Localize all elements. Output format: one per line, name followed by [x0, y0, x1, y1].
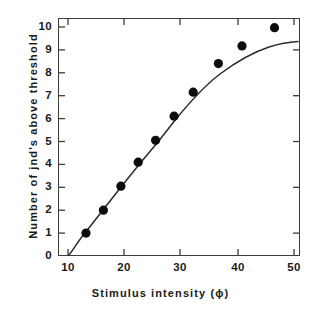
y-axis-ticks-right	[293, 50, 300, 233]
data-point	[170, 112, 179, 121]
x-tick-label-40: 40	[231, 262, 245, 274]
x-axis-ticks	[68, 249, 294, 256]
x-tick-label-50: 50	[287, 262, 301, 274]
y-axis-ticks	[58, 27, 65, 256]
y-axis-title: Number of jnd's above threshold	[27, 11, 39, 261]
data-point	[151, 136, 160, 145]
data-point	[116, 182, 125, 191]
chart-plot-area	[58, 18, 300, 256]
data-point	[134, 158, 143, 167]
x-axis-title: Stimulus intensity (ϕ)	[0, 287, 321, 299]
x-tick-label-10: 10	[61, 262, 75, 274]
data-point	[99, 206, 108, 215]
data-point	[81, 229, 90, 238]
x-tick-label-30: 30	[173, 262, 187, 274]
x-axis-ticks-top	[68, 18, 294, 25]
data-point	[270, 23, 279, 32]
figure-canvas: 10 20 30 40 50 0 1 2 3 4 5 6 7 8 9 10 St…	[0, 0, 321, 316]
data-point	[214, 59, 223, 68]
data-curve	[68, 42, 298, 257]
x-tick-label-20: 20	[117, 262, 131, 274]
data-point	[237, 41, 246, 50]
data-point	[189, 88, 198, 97]
